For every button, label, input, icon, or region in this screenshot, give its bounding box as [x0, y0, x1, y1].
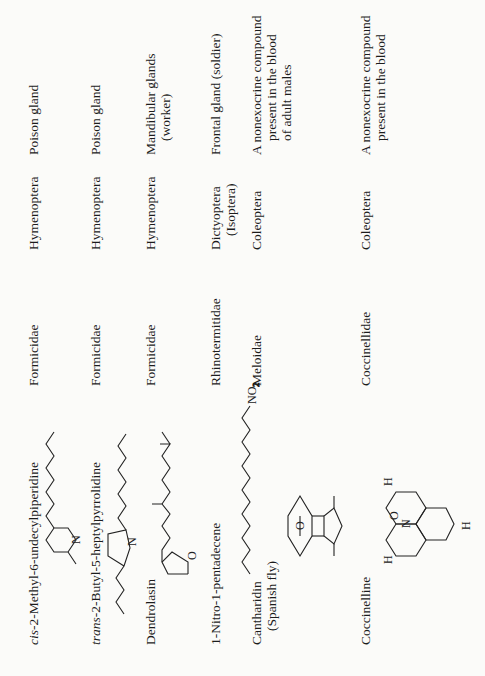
structure-piperidine-icon: N	[44, 426, 84, 566]
svg-text:H: H	[381, 477, 395, 486]
svg-text:O: O	[185, 551, 199, 560]
svg-text:N: N	[125, 537, 139, 546]
svg-text:O: O	[293, 521, 307, 530]
order-3: Hymenoptera	[143, 177, 158, 250]
order-4: Dictyoptera (Isoptera)	[208, 184, 238, 250]
source-5: A nonexocrine compound present in the bl…	[249, 16, 294, 155]
svg-text:N: N	[69, 535, 83, 544]
source-2: Poison gland	[88, 85, 103, 155]
family-3: Formicidae	[143, 325, 158, 386]
source-3: Mandibular glands (worker)	[143, 53, 173, 155]
family-2: Formicidae	[88, 325, 103, 386]
svg-text:O: O	[387, 511, 401, 520]
order-2: Hymenoptera	[88, 177, 103, 250]
svg-text:H: H	[459, 521, 473, 530]
compound-name-1: cis-2-Methyl-6-undecylpiperidine	[26, 462, 41, 645]
structure-dendrolasin-icon: O	[158, 376, 198, 576]
source-1: Poison gland	[26, 85, 41, 155]
structure-coccinelline-icon: N O H H H	[376, 446, 456, 566]
svg-text:N: N	[399, 519, 413, 528]
family-4: Rhinotermitidae	[208, 298, 223, 386]
order-1: Hymenoptera	[26, 177, 41, 250]
order-5: Coleoptera	[249, 191, 264, 250]
source-4: Frontal gland (soldier)	[208, 34, 223, 155]
compound-name-5: Cantharidin (Spanish fly)	[249, 561, 279, 645]
compound-name-2: trans-2-Butyl-5-heptylpyrrolidine	[88, 462, 103, 645]
rotated-table-page: cis-2-Methyl-6-undecylpiperidine N Formi…	[0, 0, 485, 676]
family-5: Meloidae	[249, 335, 264, 386]
family-1: Formicidae	[26, 325, 41, 386]
svg-text:H: H	[381, 555, 395, 564]
source-6: A nonexocrine compound present in the bl…	[358, 16, 388, 155]
order-6: Coleoptera	[358, 191, 373, 250]
structure-nitroalkene-icon: NO2	[220, 386, 260, 576]
compound-name-6: Coccinelline	[358, 577, 373, 645]
compound-name-3: Dendrolasin	[143, 579, 158, 645]
structure-pyrrolidine-icon: N	[104, 386, 144, 616]
structure-cantharidin-icon: O	[280, 446, 350, 566]
family-6: Coccinellidae	[358, 312, 373, 386]
